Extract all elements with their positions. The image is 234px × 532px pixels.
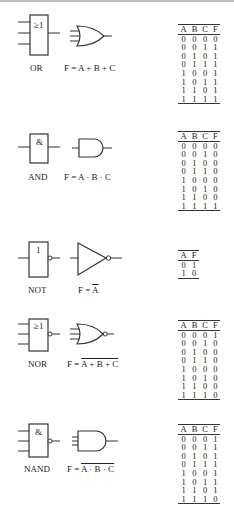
nor-truth-table: A B C F 0001 0010 0100 0110 1000 1010 11… bbox=[178, 320, 220, 400]
cell: 1 bbox=[200, 495, 211, 504]
formula-overlined: A bbox=[92, 285, 99, 295]
formula-overlined: A + B + C bbox=[81, 359, 118, 369]
cell: 0 bbox=[189, 269, 199, 278]
col-header: A bbox=[178, 425, 189, 435]
col-header: A bbox=[178, 132, 189, 142]
table-row: 1111 bbox=[178, 202, 220, 211]
table-row: 1110 bbox=[178, 495, 220, 504]
not-truth-table: A F 01 10 bbox=[178, 250, 199, 279]
or-iec-label: ≥1 bbox=[34, 20, 43, 30]
or-gate-name: OR bbox=[30, 63, 43, 73]
cell: 1 bbox=[189, 391, 200, 400]
and-iec-label: & bbox=[36, 137, 43, 147]
col-header: F bbox=[210, 321, 220, 331]
top-border bbox=[0, 0, 234, 2]
col-header: C bbox=[200, 321, 211, 331]
cell: 1 bbox=[178, 269, 189, 278]
nand-iec-label: & bbox=[35, 427, 42, 437]
col-header: A bbox=[178, 251, 189, 261]
col-header: B bbox=[189, 132, 200, 142]
not-iec-label: 1 bbox=[36, 245, 41, 255]
col-header: A bbox=[178, 321, 189, 331]
or-distinctive-symbol bbox=[70, 24, 114, 50]
col-header: F bbox=[210, 132, 220, 142]
col-header: C bbox=[200, 25, 211, 35]
formula-prefix: F = bbox=[67, 464, 81, 474]
formula-prefix: F = bbox=[67, 359, 81, 369]
nand-truth-table: A B C F 0001 0011 0101 0111 1001 1011 11… bbox=[178, 424, 220, 504]
nand-gate-name: NAND bbox=[24, 464, 50, 474]
or-truth-table: A B C F 0000 0011 0101 0111 1001 1011 11… bbox=[178, 24, 220, 104]
col-header: F bbox=[210, 425, 220, 435]
cell: 1 bbox=[189, 95, 200, 104]
and-truth-table: A B C F 0000 0010 0100 0110 1000 1010 11… bbox=[178, 131, 220, 211]
not-formula: F = A bbox=[78, 285, 99, 295]
col-header: B bbox=[189, 425, 200, 435]
col-header: F bbox=[210, 25, 220, 35]
col-header: A bbox=[178, 25, 189, 35]
not-gate-name: NOT bbox=[28, 285, 47, 295]
cell: 1 bbox=[189, 202, 200, 211]
nand-formula: F = A · B · C bbox=[67, 464, 114, 474]
col-header: B bbox=[189, 25, 200, 35]
cell: 1 bbox=[178, 495, 189, 504]
col-header: B bbox=[189, 321, 200, 331]
col-header: C bbox=[200, 132, 211, 142]
cell: 1 bbox=[178, 95, 189, 104]
cell: 1 bbox=[200, 391, 211, 400]
not-distinctive-symbol bbox=[70, 241, 126, 279]
not-iec-symbol bbox=[18, 241, 64, 279]
nor-iec-label: ≥1 bbox=[34, 321, 43, 331]
nor-formula: F = A + B + C bbox=[67, 359, 118, 369]
formula-prefix: F = bbox=[78, 285, 92, 295]
cell: 1 bbox=[210, 202, 220, 211]
and-gate-name: AND bbox=[28, 172, 48, 182]
table-row: 1111 bbox=[178, 95, 220, 104]
col-header: C bbox=[200, 425, 211, 435]
nor-distinctive-symbol bbox=[70, 322, 116, 348]
table-row: 1110 bbox=[178, 391, 220, 400]
cell: 1 bbox=[178, 202, 189, 211]
formula-overlined: A · B · C bbox=[81, 464, 114, 474]
nor-gate-name: NOR bbox=[28, 359, 47, 369]
and-formula: F = A · B · C bbox=[64, 172, 111, 182]
or-formula: F = A + B + C bbox=[64, 63, 115, 73]
col-header: F bbox=[189, 251, 199, 261]
table-row: 10 bbox=[178, 269, 199, 278]
cell: 1 bbox=[200, 95, 211, 104]
cell: 1 bbox=[189, 495, 200, 504]
cell: 1 bbox=[210, 95, 220, 104]
cell: 1 bbox=[178, 391, 189, 400]
cell: 1 bbox=[200, 202, 211, 211]
cell: 0 bbox=[210, 495, 220, 504]
cell: 0 bbox=[210, 391, 220, 400]
and-distinctive-symbol bbox=[72, 137, 116, 159]
nand-distinctive-symbol bbox=[72, 430, 120, 454]
